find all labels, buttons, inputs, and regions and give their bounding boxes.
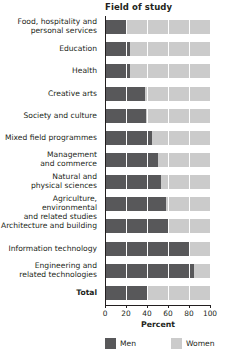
category-label-line: Society and culture — [0, 112, 97, 121]
bar-segment-men — [105, 153, 158, 167]
bar-row — [105, 131, 210, 145]
bar-segment-women — [146, 109, 210, 123]
bar-segment-women — [189, 242, 210, 256]
bar-segment-women — [130, 64, 210, 78]
legend-item[interactable]: Women — [171, 338, 215, 349]
bar-segment-women — [148, 286, 210, 300]
x-tick — [105, 305, 106, 308]
category-label-line: Mixed field programmes — [0, 134, 97, 143]
bar-segment-women — [194, 264, 210, 278]
category-label: Education — [0, 45, 97, 54]
bar-row — [105, 87, 210, 101]
bar-segment-women — [145, 87, 210, 101]
gridline — [189, 16, 190, 304]
x-tick-label: 40 — [142, 309, 151, 318]
category-label: Mixed field programmes — [0, 134, 97, 143]
x-tick — [126, 305, 127, 308]
x-tick-label: 60 — [163, 309, 172, 318]
x-tick — [168, 305, 169, 308]
bar-row — [105, 264, 210, 278]
bar-segment-men — [105, 175, 161, 189]
category-label: Health — [0, 67, 97, 76]
category-labels: Food, hospitality andpersonal servicesEd… — [0, 16, 101, 304]
y-axis-line — [105, 16, 106, 305]
x-axis-line — [105, 305, 211, 306]
category-label: Architecture and building — [0, 222, 97, 231]
bar-row — [105, 286, 210, 300]
bar-segment-men — [105, 219, 169, 233]
x-tick-label: 80 — [184, 309, 193, 318]
bar-row — [105, 219, 210, 233]
category-label: Society and culture — [0, 112, 97, 121]
category-label-line: Education — [0, 45, 97, 54]
chart-container: Field of study Food, hospitality andpers… — [0, 0, 231, 358]
category-label: Agriculture, environmentaland related st… — [0, 195, 97, 221]
bar-row — [105, 197, 210, 211]
category-label-line: Creative arts — [0, 90, 97, 99]
bar-row — [105, 242, 210, 256]
category-label: Natural andphysical sciences — [0, 173, 97, 190]
bar-segment-women — [152, 131, 210, 145]
category-label-line: related technologies — [0, 271, 97, 280]
x-tick-label: 20 — [121, 309, 130, 318]
plot-area — [105, 16, 210, 304]
bar-row — [105, 109, 210, 123]
category-label: Total — [0, 289, 97, 298]
x-tick — [210, 305, 211, 308]
category-label: Managementand commerce — [0, 151, 97, 168]
category-label: Information technology — [0, 245, 97, 254]
bar-segment-men — [105, 87, 145, 101]
category-label-line: physical sciences — [0, 182, 97, 191]
category-label: Engineering andrelated technologies — [0, 262, 97, 279]
category-label-line: personal services — [0, 27, 97, 36]
category-label-line: Total — [0, 289, 97, 298]
x-tick — [147, 305, 148, 308]
gridline — [147, 16, 148, 304]
bar-segment-women — [130, 42, 210, 56]
legend-swatch — [171, 338, 182, 349]
gridline — [168, 16, 169, 304]
category-label: Food, hospitality andpersonal services — [0, 18, 97, 35]
bar-segment-men — [105, 131, 152, 145]
bar-row — [105, 153, 210, 167]
bar-segment-men — [105, 264, 194, 278]
bar-segment-men — [105, 20, 127, 34]
bar-row — [105, 64, 210, 78]
category-label: Creative arts — [0, 90, 97, 99]
bar-segment-women — [158, 153, 211, 167]
gridline — [210, 16, 211, 304]
bar-segment-women — [166, 197, 210, 211]
gridline — [126, 16, 127, 304]
chart-legend: MenWomen — [105, 338, 225, 352]
bar-row — [105, 175, 210, 189]
legend-item[interactable]: Men — [105, 338, 136, 349]
legend-label: Men — [120, 339, 136, 348]
category-label-line: Information technology — [0, 245, 97, 254]
chart-title: Field of study — [105, 2, 172, 12]
x-axis-title: Percent — [105, 320, 211, 329]
legend-swatch — [105, 338, 116, 349]
category-label-line: Agriculture, environmental — [0, 195, 97, 212]
bar-segment-men — [105, 197, 166, 211]
bar-row — [105, 42, 210, 56]
x-tick-label: 0 — [103, 309, 108, 318]
category-label-line: and commerce — [0, 160, 97, 169]
bar-row — [105, 20, 210, 34]
category-label-line: Architecture and building — [0, 222, 97, 231]
legend-label: Women — [186, 339, 215, 348]
category-label-line: Health — [0, 67, 97, 76]
x-tick-label: 100 — [203, 309, 217, 318]
x-tick — [189, 305, 190, 308]
